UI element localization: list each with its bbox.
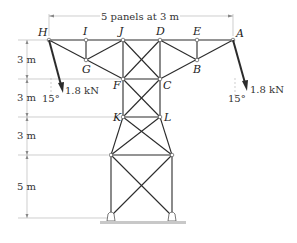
right-support-icon <box>168 212 176 221</box>
top-dimension-label: 5 panels at 3 m <box>101 11 179 22</box>
truss-members <box>49 40 233 216</box>
node-label-k: K <box>112 111 122 124</box>
node-label-d: D <box>155 25 165 38</box>
node-label-j: J <box>117 25 124 38</box>
arrow-head-icon <box>58 82 64 93</box>
load-right-magnitude: 1.8 kN <box>250 84 284 95</box>
truss-diagram: 5 panels at 3 m 3 m 3 m 3 m 5 m <box>0 0 297 243</box>
node-label-g: G <box>82 63 91 76</box>
node-label-l: L <box>163 111 171 124</box>
node-label-h: H <box>37 26 48 39</box>
supports <box>100 212 186 224</box>
load-right-angle: 15° <box>228 93 246 104</box>
load-left-magnitude: 1.8 kN <box>65 85 99 96</box>
dim-label-3: 3 m <box>17 130 37 141</box>
ground-hatch <box>100 221 186 224</box>
left-support-icon <box>107 212 115 221</box>
node-label-f: F <box>112 79 121 92</box>
node-label-a: A <box>235 27 244 40</box>
node-label-i: I <box>82 25 88 38</box>
dim-label-4: 5 m <box>17 181 37 192</box>
node-label-e: E <box>192 25 201 38</box>
node-label-b: B <box>192 63 201 76</box>
dim-label-1: 3 m <box>17 54 37 65</box>
load-left-angle: 15° <box>42 93 60 104</box>
dim-label-2: 3 m <box>17 92 37 103</box>
node-label-c: C <box>163 79 172 92</box>
arrow-head-icon <box>242 80 248 91</box>
load-left <box>49 40 64 93</box>
